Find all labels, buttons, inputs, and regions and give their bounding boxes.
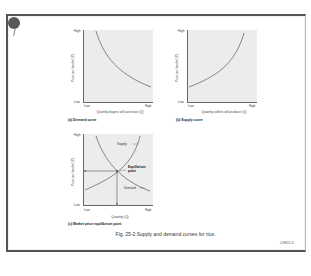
x-axis-label: Quantity (Q) xyxy=(88,215,152,219)
equilibrium-label-line2: point xyxy=(128,170,136,173)
demand-label: Demand xyxy=(124,186,136,190)
supply-label: Supply xyxy=(117,142,127,146)
figure-caption: Fig. 25-2 Supply and demand curves for r… xyxy=(0,231,311,237)
x-tick-high: High xyxy=(145,208,152,212)
slide-code: CH25-5 xyxy=(280,240,294,245)
panel-caption: (c) Market price equilibrium point xyxy=(68,222,122,226)
x-tick-low: Low xyxy=(84,208,90,212)
